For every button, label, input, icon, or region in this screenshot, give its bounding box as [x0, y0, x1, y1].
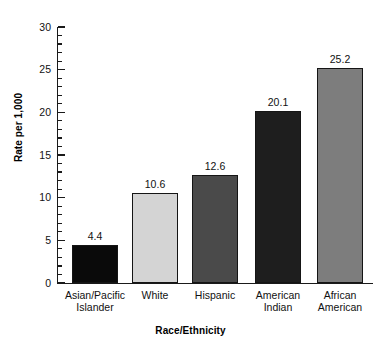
y-tick-major — [58, 240, 65, 241]
y-tick-major — [58, 282, 65, 283]
y-tick-label: 0 — [21, 278, 51, 289]
x-category-label-line: American — [300, 301, 380, 313]
bar — [255, 111, 301, 283]
y-tick-minor — [58, 52, 62, 53]
y-tick-minor — [58, 78, 62, 79]
y-tick-minor — [58, 61, 62, 62]
y-tick-minor — [58, 231, 62, 232]
y-tick-minor — [58, 120, 62, 121]
y-tick-label: 5 — [21, 235, 51, 246]
bar-value-label: 12.6 — [190, 161, 240, 172]
bar-value-label: 4.4 — [70, 231, 120, 242]
y-tick-minor — [58, 129, 62, 130]
y-tick-minor — [58, 86, 62, 87]
y-tick-label: 10 — [21, 192, 51, 203]
bar-value-label: 20.1 — [253, 97, 303, 108]
y-tick-minor — [58, 265, 62, 266]
x-axis-line — [57, 283, 373, 284]
x-category-label-line: Islander — [55, 301, 135, 313]
y-tick-minor — [58, 189, 62, 190]
y-axis-title: Rate per 1,000 — [13, 68, 24, 188]
y-tick-minor — [58, 43, 62, 44]
y-tick-minor — [58, 103, 62, 104]
y-tick-minor — [58, 257, 62, 258]
y-tick-minor — [58, 163, 62, 164]
bar — [317, 68, 363, 283]
y-tick-minor — [58, 171, 62, 172]
y-tick-minor — [58, 223, 62, 224]
y-tick-minor — [58, 180, 62, 181]
y-tick-minor — [58, 274, 62, 275]
y-tick-label: 15 — [21, 150, 51, 161]
y-tick-label: 25 — [21, 64, 51, 75]
bar-chart: Rate per 1,000 051015202530 4.410.612.62… — [0, 0, 381, 346]
y-tick-major — [58, 69, 65, 70]
x-category-label: AfricanAmerican — [300, 289, 380, 314]
y-tick-major — [58, 112, 65, 113]
y-tick-minor — [58, 146, 62, 147]
y-tick-minor — [58, 95, 62, 96]
bar — [192, 175, 238, 283]
y-tick-major — [58, 26, 65, 27]
x-axis-title: Race/Ethnicity — [0, 325, 381, 336]
bar — [132, 193, 178, 283]
y-tick-major — [58, 197, 65, 198]
y-tick-minor — [58, 206, 62, 207]
y-tick-minor — [58, 248, 62, 249]
y-tick-minor — [58, 214, 62, 215]
y-tick-minor — [58, 35, 62, 36]
y-tick-label: 30 — [21, 22, 51, 33]
y-tick-label: 20 — [21, 107, 51, 118]
bar-value-label: 10.6 — [130, 179, 180, 190]
y-tick-minor — [58, 137, 62, 138]
x-category-label-line: African — [300, 289, 380, 301]
y-tick-major — [58, 154, 65, 155]
bar-value-label: 25.2 — [315, 54, 365, 65]
bar — [72, 245, 118, 283]
